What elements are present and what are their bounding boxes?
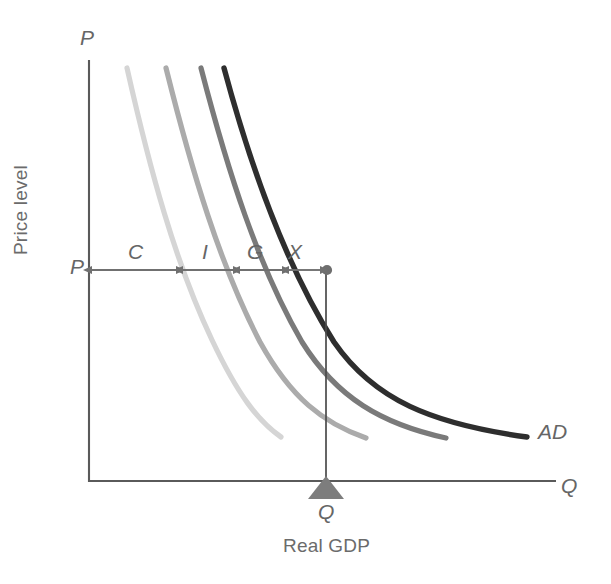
x-axis-symbol-label: Q [561,474,577,498]
y-axis-title-wrapper: Price level [10,165,32,255]
ad-curve-group [127,68,527,438]
x-axis-tick-label-Q: Q [318,500,334,524]
y-axis-title: Price level [10,165,31,255]
y-axis-symbol-label: P [80,26,94,50]
segment-label-X: X [288,240,302,264]
ad-curve-4 [224,68,527,437]
y-axis-tick-label-P: P [70,255,84,279]
ad-components-figure: P P Q Q Price level Real GDP AD C I G X [0,0,611,584]
ad-curve-label: AD [538,420,567,444]
q-triangle-marker [308,476,344,499]
diagram-canvas [0,0,611,584]
segment-label-C: C [128,240,143,264]
equilibrium-point-dot [322,265,332,275]
top-cropped-caption [0,0,611,14]
segment-label-G: G [247,240,263,264]
segment-label-I: I [202,240,208,264]
x-axis-title: Real GDP [283,535,370,557]
